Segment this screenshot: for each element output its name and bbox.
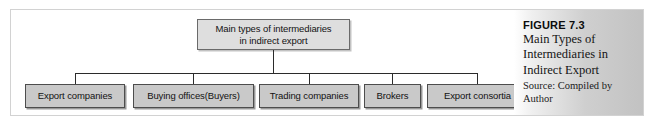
connector-drop-5 [477,73,478,84]
chart-leaf-node: Export companies [25,84,125,108]
figure-frame: Main types of intermediaries in indirect… [10,9,644,116]
connector-horizontal-bus [75,73,478,74]
connector-root-stem [273,50,274,73]
chart-leaf-label: Export companies [38,90,112,101]
connector-drop-4 [392,73,393,84]
figure-caption-panel: FIGURE 7.3 Main Types of Intermediaries … [514,10,643,115]
org-chart-diagram: Main types of intermediaries in indirect… [11,10,514,115]
figure-source-note: Source: Compiled by Author [523,79,636,106]
chart-leaf-node: Buying offices(Buyers) [133,84,254,108]
figure-title-line-1: Main Types of [523,32,636,47]
figure-number: FIGURE 7.3 [523,19,636,31]
connector-drop-2 [193,73,194,84]
figure-title-line-2: Intermediaries in [523,47,636,62]
connector-drop-1 [75,73,76,84]
figure-title: Main Types of Intermediaries in Indirect… [523,32,636,78]
chart-leaf-label: Export consortia [444,90,511,101]
chart-leaf-label: Trading companies [270,90,349,101]
figure-title-line-3: Indirect Export [523,63,636,78]
chart-root-node: Main types of intermediaries in indirect… [197,19,350,50]
chart-leaf-label: Buying offices(Buyers) [147,90,240,101]
chart-root-label-line-2: in indirect export [215,35,331,46]
chart-root-label-line-1: Main types of intermediaries [215,23,331,34]
chart-leaf-label: Brokers [376,90,408,101]
chart-root-label: Main types of intermediaries in indirect… [215,23,331,45]
figure-source-line-2: Author [523,92,636,105]
chart-leaf-node: Export consortia [427,84,528,108]
chart-leaf-node: Trading companies [259,84,359,108]
figure-source-line-1: Source: Compiled by [523,79,636,92]
chart-leaf-node: Brokers [364,84,421,108]
connector-drop-3 [309,73,310,84]
